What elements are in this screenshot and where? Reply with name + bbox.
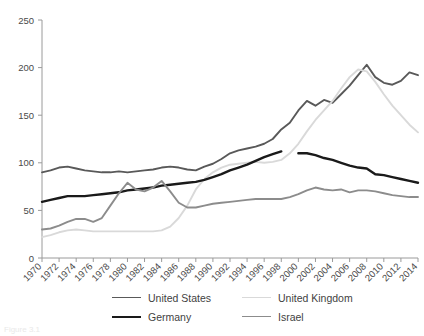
legend-swatch — [242, 316, 271, 317]
legend-item-germany[interactable]: Germany — [112, 311, 242, 323]
legend-swatch — [112, 316, 141, 318]
series-line-united-states — [42, 65, 418, 173]
y-tick-label: 200 — [18, 62, 34, 73]
series-line-israel — [42, 181, 418, 230]
legend-swatch — [112, 297, 141, 298]
y-tick-label: 250 — [18, 15, 34, 26]
legend-item-united-kingdom[interactable]: United Kingdom — [242, 292, 392, 304]
legend-item-united-states[interactable]: United States — [112, 292, 242, 304]
x-tick-label: 2014 — [397, 261, 420, 284]
legend-label: United Kingdom — [278, 292, 353, 304]
legend-item-israel[interactable]: Israel — [242, 311, 392, 323]
chart-legend: United StatesUnited KingdomGermanyIsrael — [112, 288, 392, 326]
figure-container: 0501001502002501970197219741976197819801… — [0, 0, 424, 336]
series-line-germany — [42, 151, 418, 201]
legend-swatch — [242, 297, 271, 298]
chart-axes — [42, 20, 418, 258]
legend-label: United States — [148, 292, 211, 304]
legend-label: Israel — [278, 311, 304, 323]
legend-label: Germany — [148, 311, 191, 323]
figure-caption: Figure 3.1 — [4, 325, 40, 334]
line-chart-plot: 0501001502002501970197219741976197819801… — [0, 0, 424, 290]
y-tick-label: 50 — [23, 205, 34, 216]
y-tick-label: 100 — [18, 157, 34, 168]
y-tick-label: 150 — [18, 110, 34, 121]
